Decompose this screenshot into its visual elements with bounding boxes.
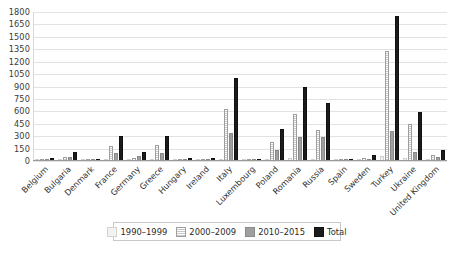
bar bbox=[395, 16, 399, 161]
bar-group bbox=[424, 12, 447, 161]
bar-group bbox=[401, 12, 424, 161]
bar bbox=[316, 130, 320, 161]
bar bbox=[385, 51, 389, 161]
legend-swatch bbox=[314, 227, 324, 237]
y-tick-label: 450 bbox=[0, 119, 30, 129]
legend-label: Total bbox=[327, 227, 347, 237]
bar bbox=[119, 136, 123, 161]
bar bbox=[326, 103, 330, 161]
y-tick-label: 1350 bbox=[0, 44, 30, 54]
bar-group bbox=[355, 12, 378, 161]
bar-group bbox=[148, 12, 171, 161]
bar-group bbox=[217, 12, 240, 161]
bar bbox=[224, 109, 228, 161]
legend-item: Total bbox=[314, 227, 347, 237]
legend-item: 1990–1999 bbox=[107, 227, 167, 237]
bar-group bbox=[102, 12, 125, 161]
y-tick-label: 150 bbox=[0, 144, 30, 154]
plot-area bbox=[33, 12, 447, 161]
y-tick-label: 900 bbox=[0, 82, 30, 92]
bar bbox=[109, 146, 113, 161]
bar bbox=[418, 112, 422, 161]
bar-group bbox=[263, 12, 286, 161]
chart-legend: 1990–19992000–20092010–2015Total bbox=[113, 222, 341, 241]
y-tick-label: 600 bbox=[0, 106, 30, 116]
bar bbox=[229, 133, 233, 161]
bar bbox=[293, 114, 297, 161]
bar bbox=[390, 131, 394, 161]
bar-group bbox=[56, 12, 79, 161]
y-tick-label: 300 bbox=[0, 131, 30, 141]
bar bbox=[165, 136, 169, 161]
y-tick-label: 750 bbox=[0, 94, 30, 104]
legend-swatch bbox=[245, 227, 255, 237]
legend-swatch bbox=[107, 227, 117, 237]
y-tick-label: 1650 bbox=[0, 19, 30, 29]
y-tick-label: 1800 bbox=[0, 7, 30, 17]
bar-group bbox=[194, 12, 217, 161]
y-tick-label: 0 bbox=[0, 156, 30, 166]
bar bbox=[155, 145, 159, 161]
legend-item: 2010–2015 bbox=[245, 227, 305, 237]
bar-group bbox=[171, 12, 194, 161]
bar bbox=[408, 124, 412, 161]
x-axis-tick-labels: BelgiumBulgariaDenmarkFranceGermanyGreec… bbox=[33, 162, 447, 220]
x-axis-line bbox=[33, 160, 447, 161]
bar bbox=[280, 129, 284, 161]
bar bbox=[270, 142, 274, 161]
bar-group bbox=[378, 12, 401, 161]
legend-label: 1990–1999 bbox=[120, 227, 167, 237]
y-tick-label: 1200 bbox=[0, 57, 30, 67]
bar-groups bbox=[33, 12, 447, 161]
bar-group bbox=[79, 12, 102, 161]
legend-item: 2000–2009 bbox=[176, 227, 236, 237]
y-tick-label: 1500 bbox=[0, 32, 30, 42]
y-tick-label: 1050 bbox=[0, 69, 30, 79]
bar-group bbox=[332, 12, 355, 161]
legend-swatch bbox=[176, 227, 186, 237]
bar-group bbox=[240, 12, 263, 161]
bar-group bbox=[33, 12, 56, 161]
bar bbox=[303, 87, 307, 162]
bar bbox=[234, 78, 238, 161]
legend-label: 2000–2009 bbox=[189, 227, 236, 237]
bar-group bbox=[125, 12, 148, 161]
bar bbox=[298, 137, 302, 161]
bar-group bbox=[286, 12, 309, 161]
bar-group bbox=[309, 12, 332, 161]
bar bbox=[321, 137, 325, 161]
legend-label: 2010–2015 bbox=[258, 227, 305, 237]
bar-chart: 0150300450600750900105012001350150016501… bbox=[0, 0, 452, 253]
